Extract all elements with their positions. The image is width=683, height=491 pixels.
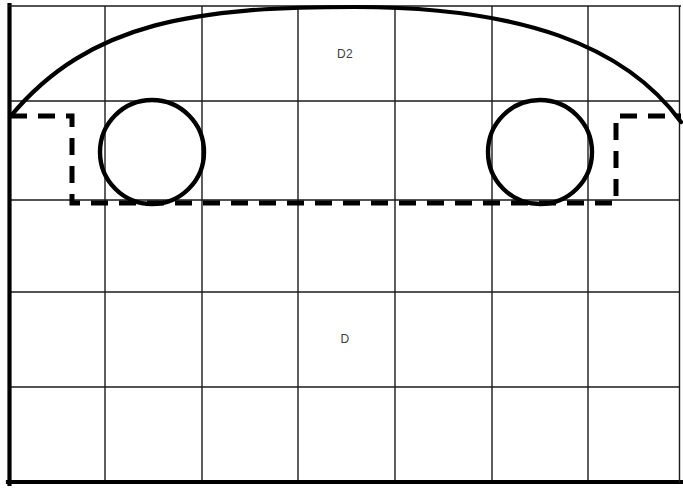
diagram-canvas: D2 D	[0, 0, 683, 491]
clearance-dashed-outline	[10, 116, 681, 203]
label-d: D	[341, 332, 350, 346]
technical-diagram: D2 D	[0, 0, 683, 491]
grid-lines	[8, 6, 680, 483]
diagram-frame	[8, 5, 681, 484]
rear-wheel-circle	[488, 100, 592, 204]
front-wheel-circle	[100, 100, 204, 204]
roof-arc	[10, 7, 681, 122]
label-d2: D2	[337, 47, 353, 61]
